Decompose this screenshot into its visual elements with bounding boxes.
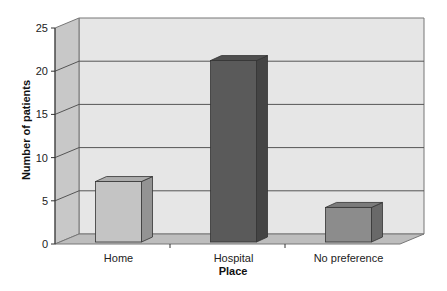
y-axis-title: Number of patients bbox=[20, 80, 32, 180]
y-tick-label: 15 bbox=[36, 108, 48, 120]
side-wall bbox=[55, 18, 79, 244]
y-tick-label: 5 bbox=[42, 195, 48, 207]
y-tick-label: 10 bbox=[36, 152, 48, 164]
bar-chart: 0510152025HomeHospitalNo preferencePlace… bbox=[0, 0, 447, 291]
x-tick-label: Hospital bbox=[214, 252, 254, 264]
x-tick-label: Home bbox=[104, 252, 133, 264]
x-axis-title: Place bbox=[219, 265, 248, 277]
bar-hospital bbox=[211, 56, 268, 242]
y-tick-label: 0 bbox=[42, 238, 48, 250]
y-tick-label: 20 bbox=[36, 65, 48, 77]
bar-home bbox=[96, 177, 153, 242]
y-tick-label: 25 bbox=[36, 22, 48, 34]
y-axis: 0510152025 bbox=[36, 22, 55, 250]
bar-no-preference bbox=[326, 202, 383, 242]
x-tick-label: No preference bbox=[314, 252, 384, 264]
